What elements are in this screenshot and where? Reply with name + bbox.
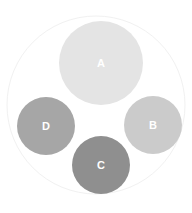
node-a-label: A xyxy=(97,57,105,69)
node-d-label: D xyxy=(42,120,50,132)
diagram-svg: A B C D xyxy=(0,0,192,213)
node-c-label: C xyxy=(97,159,105,171)
node-b-label: B xyxy=(149,119,157,131)
node-a: A xyxy=(59,21,143,105)
node-d: D xyxy=(17,97,75,155)
node-b: B xyxy=(124,96,182,154)
circle-packing-diagram: A B C D xyxy=(0,0,192,213)
node-c: C xyxy=(72,136,130,194)
